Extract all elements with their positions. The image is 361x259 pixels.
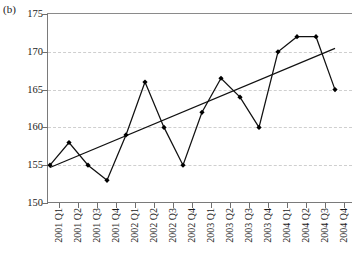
plot-area xyxy=(47,14,352,203)
gridline-170 xyxy=(48,52,352,53)
y-tick-label-165: 165 xyxy=(17,85,43,96)
x-axis-labels: 2001 Q12001 Q22001 Q32001 Q42002 Q12002 … xyxy=(0,208,361,259)
x-tick-label: 2004 Q4 xyxy=(339,208,361,258)
y-tick-label-155: 155 xyxy=(17,160,43,171)
y-tick-label-175: 175 xyxy=(17,9,43,20)
gridline-160 xyxy=(48,127,352,128)
chart-figure: (b) 175 170 165 160 155 150 2001 Q12001 … xyxy=(0,0,361,259)
y-axis-tick xyxy=(42,203,48,204)
y-axis-tick xyxy=(42,14,48,15)
gridline-165 xyxy=(48,90,352,91)
y-tick-label-170: 170 xyxy=(17,47,43,58)
gridline-155 xyxy=(48,165,352,166)
y-tick-label-160: 160 xyxy=(17,122,43,133)
y-tick-label-150: 150 xyxy=(17,198,43,209)
